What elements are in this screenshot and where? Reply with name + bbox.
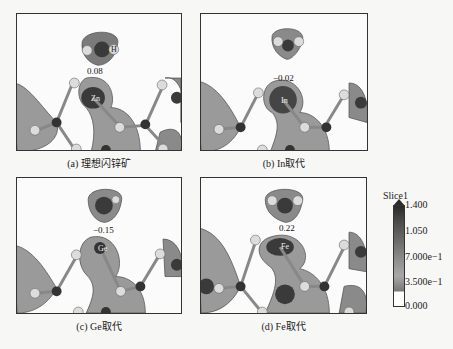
panel-a-ideal-sphalerite: 0.08 H Zn — [16, 13, 182, 151]
atom-label-center-b: In — [281, 96, 288, 105]
panel-b-in-substitution: −0.02 In — [200, 13, 368, 151]
panel-c-ge-substitution: −0.15 Ge — [16, 177, 182, 314]
panel-d-fe-substitution: 0.22 Fe — [200, 177, 367, 314]
atom-label-center-c: Ge — [98, 244, 107, 253]
charge-density-map-a — [17, 14, 181, 150]
legend-tick-0700: 7.000e−1 — [405, 251, 443, 262]
charge-value-d: 0.22 — [279, 223, 295, 233]
legend-tick-1400: 1.400 — [405, 199, 428, 210]
caption-d: (d) Fe取代 — [200, 318, 367, 333]
legend-tick-1050: 1.050 — [405, 225, 428, 236]
charge-value-c: −0.15 — [93, 225, 114, 235]
atom-label-h: H — [111, 45, 117, 54]
caption-c: (c) Ge取代 — [16, 318, 182, 333]
charge-value-b: −0.02 — [273, 73, 294, 83]
legend-tick-0000: 0.000 — [405, 300, 428, 311]
atom-label-center-d: Fe — [281, 242, 289, 251]
atom-label-center-a: Zn — [91, 94, 100, 103]
legend-tick-0350: 3.500e−1 — [405, 276, 443, 287]
charge-value-a: 0.08 — [87, 66, 103, 76]
legend-colorbar — [393, 205, 405, 307]
caption-a: (a) 理想闪锌矿 — [16, 155, 182, 170]
caption-b: (b) In取代 — [200, 155, 368, 170]
